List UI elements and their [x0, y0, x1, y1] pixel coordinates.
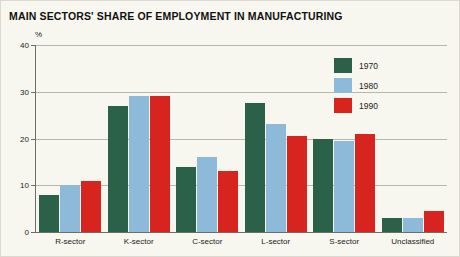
y-axis-tick-label: 20: [7, 135, 29, 144]
bar-k-sector-1980: [129, 96, 149, 232]
y-axis-tick-label: 30: [7, 88, 29, 97]
page-title: MAIN SECTORS' SHARE OF EMPLOYMENT IN MAN…: [9, 10, 343, 22]
bar-group: [245, 45, 307, 232]
bar-s-sector-1990: [355, 134, 375, 232]
bar-unclassified-1980: [403, 218, 423, 232]
y-axis-tick-mark: [31, 232, 36, 233]
legend-label: 1970: [359, 61, 378, 71]
bar-l-sector-1980: [266, 124, 286, 232]
x-axis-tick-label: L-sector: [242, 237, 311, 246]
bar-l-sector-1990: [287, 136, 307, 232]
bar-k-sector-1990: [150, 96, 170, 232]
bar-s-sector-1980: [334, 141, 354, 232]
legend-label: 1980: [359, 81, 378, 91]
plot-area: [36, 45, 447, 232]
bar-group: [313, 45, 375, 232]
x-axis-tick-label: S-sector: [310, 237, 379, 246]
legend-swatch-1970: [334, 58, 352, 73]
bar-r-sector-1970: [39, 195, 59, 232]
legend-swatch-1980: [334, 78, 352, 93]
bar-unclassified-1990: [424, 211, 444, 232]
y-axis-tick-mark: [31, 185, 36, 186]
y-axis-tick-label: 40: [7, 41, 29, 50]
x-axis-tick-label: R-sector: [36, 237, 105, 246]
x-axis-tick-label: K-sector: [105, 237, 174, 246]
bar-c-sector-1990: [218, 171, 238, 232]
bar-c-sector-1970: [176, 167, 196, 232]
bar-r-sector-1980: [60, 185, 80, 232]
bar-s-sector-1970: [313, 139, 333, 233]
y-axis-tick-mark: [31, 139, 36, 140]
legend-label: 1990: [359, 101, 378, 111]
bar-c-sector-1980: [197, 157, 217, 232]
bar-group: [176, 45, 238, 232]
bar-unclassified-1970: [382, 218, 402, 232]
bar-group: [39, 45, 101, 232]
bar-k-sector-1970: [108, 106, 128, 232]
x-axis-line: [36, 232, 447, 233]
y-axis-unit-label: %: [35, 30, 42, 39]
bar-group: [382, 45, 444, 232]
chart-page: MAIN SECTORS' SHARE OF EMPLOYMENT IN MAN…: [0, 0, 460, 257]
bar-group: [108, 45, 170, 232]
bar-r-sector-1990: [81, 181, 101, 232]
y-axis-tick-label: 0: [7, 228, 29, 237]
x-axis-tick-label: C-sector: [173, 237, 242, 246]
legend-swatch-1990: [334, 98, 352, 113]
y-axis-tick-mark: [31, 45, 36, 46]
bar-l-sector-1970: [245, 103, 265, 232]
y-axis-tick-mark: [31, 92, 36, 93]
x-axis-tick-label: Unclassified: [379, 237, 448, 246]
y-axis-tick-label: 10: [7, 181, 29, 190]
